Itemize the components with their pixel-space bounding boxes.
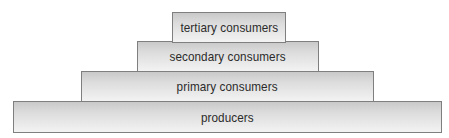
level-label: tertiary consumers — [180, 20, 278, 35]
level-label: producers — [201, 110, 254, 125]
trophic-pyramid-diagram: tertiary consumers secondary consumers p… — [0, 0, 449, 138]
level-label: primary consumers — [177, 79, 278, 94]
pyramid-level-tertiary-consumers: tertiary consumers — [172, 12, 286, 43]
pyramid-level-primary-consumers: primary consumers — [81, 71, 374, 102]
pyramid-level-producers: producers — [13, 101, 442, 133]
level-label: secondary consumers — [170, 49, 286, 64]
pyramid-level-secondary-consumers: secondary consumers — [137, 41, 319, 72]
